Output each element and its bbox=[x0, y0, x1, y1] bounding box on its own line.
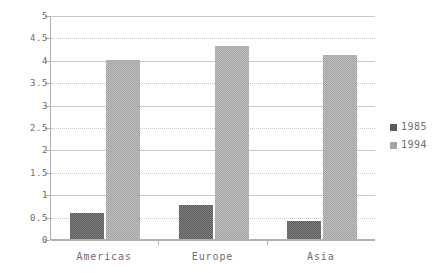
gridline bbox=[51, 38, 375, 39]
y-axis-tick-label: 3 bbox=[42, 102, 48, 111]
y-axis-tick-label: 2.5 bbox=[30, 124, 48, 133]
legend-item-1994: 1994 bbox=[390, 136, 427, 154]
bar-americas-1985 bbox=[70, 213, 104, 239]
y-axis-tick-label: 4 bbox=[42, 57, 48, 66]
y-axis-tick-label: 4.5 bbox=[30, 34, 48, 43]
y-axis-tick-label: 0 bbox=[42, 236, 48, 245]
legend-item-1985: 1985 bbox=[390, 118, 427, 136]
x-axis-label-americas: Americas bbox=[44, 251, 164, 262]
bar-americas-1994 bbox=[106, 60, 140, 239]
y-axis-tick-label: 0.5 bbox=[30, 214, 48, 223]
gridline bbox=[51, 240, 375, 241]
y-axis-tick-label: 3.5 bbox=[30, 79, 48, 88]
x-axis-label-europe: Europe bbox=[153, 251, 273, 262]
bar-europe-1985 bbox=[179, 205, 213, 239]
bar-asia-1994 bbox=[323, 55, 357, 239]
bar-chart: 00.511.522.533.544.55 AmericasEuropeAsia… bbox=[0, 0, 442, 273]
y-axis-tick-label: 5 bbox=[42, 12, 48, 21]
x-axis-label-asia: Asia bbox=[261, 251, 381, 262]
legend-swatch-icon-1985 bbox=[390, 124, 397, 131]
legend-swatch-icon-1994 bbox=[390, 142, 397, 149]
chart-legend: 19851994 bbox=[390, 118, 427, 154]
plot-area bbox=[50, 16, 375, 240]
bar-asia-1985 bbox=[287, 221, 321, 239]
y-axis-tick-label: 1 bbox=[42, 191, 48, 200]
legend-label-1994: 1994 bbox=[401, 140, 427, 150]
legend-label-1985: 1985 bbox=[401, 122, 427, 132]
y-axis-tick-label: 1.5 bbox=[30, 169, 48, 178]
bar-europe-1994 bbox=[215, 46, 249, 239]
gridline bbox=[51, 16, 375, 17]
y-axis-tick-label: 2 bbox=[42, 146, 48, 155]
